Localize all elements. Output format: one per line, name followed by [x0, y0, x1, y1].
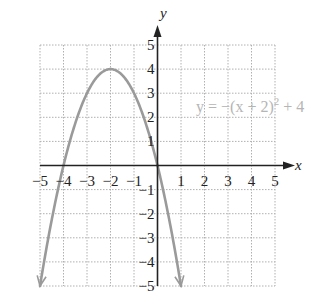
x-tick-label: −2: [103, 173, 119, 189]
y-tick-label: −5: [139, 278, 155, 294]
y-tick-label: 3: [147, 85, 155, 101]
y-tick-label: 1: [147, 133, 155, 149]
y-tick-label: 5: [147, 37, 155, 53]
parabola-chart: −5−4−3−2−11234554321−1−2−3−4−5 x y y = −…: [0, 0, 319, 297]
equation-label: y = −(x + 2)2 + 4: [196, 95, 304, 116]
y-tick-label: 2: [147, 109, 155, 125]
x-axis-label: x: [294, 157, 302, 173]
x-tick-label: −5: [32, 173, 48, 189]
y-tick-label: −3: [139, 230, 155, 246]
y-tick-label: 4: [147, 61, 155, 77]
x-tick-label: 2: [201, 173, 209, 189]
y-tick-label: −1: [139, 182, 155, 198]
y-axis-label: y: [158, 5, 167, 21]
x-tick-label: 5: [271, 173, 279, 189]
x-tick-label: −4: [56, 173, 72, 189]
y-tick-label: −2: [139, 206, 155, 222]
x-tick-label: 4: [248, 173, 256, 189]
x-tick-label: 3: [224, 173, 232, 189]
y-tick-label: −4: [139, 254, 155, 270]
x-tick-label: −3: [79, 173, 95, 189]
axes: [40, 25, 295, 286]
x-tick-label: 1: [177, 173, 185, 189]
